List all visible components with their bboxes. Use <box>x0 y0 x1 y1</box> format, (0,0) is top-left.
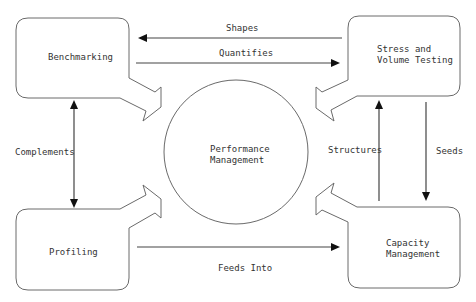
shapes-arrowhead <box>138 34 147 42</box>
capacity-label-line1: Capacity <box>386 238 440 249</box>
stress-label-line2: Volume Testing <box>377 55 453 66</box>
performance-management-label: Performance Management <box>210 144 270 166</box>
stress-volume-testing-node <box>316 16 460 121</box>
seeds-arrowhead <box>422 192 430 201</box>
stress-volume-testing-label: Stress and Volume Testing <box>377 44 453 66</box>
complements-arrowhead-down <box>70 199 78 208</box>
feeds-into-arrowhead <box>331 243 340 251</box>
capacity-management-node <box>316 183 460 288</box>
benchmarking-node <box>16 18 161 121</box>
capacity-label-line2: Management <box>386 249 440 260</box>
structures-arrowhead <box>375 100 383 109</box>
seeds-edge-label: Seeds <box>436 146 463 157</box>
complements-edge-label: Complements <box>15 147 75 158</box>
capacity-management-label: Capacity Management <box>386 238 440 260</box>
profiling-node <box>16 185 161 290</box>
structures-edge-label: Structures <box>328 145 382 156</box>
stress-label-line1: Stress and <box>377 44 453 55</box>
benchmarking-label: Benchmarking <box>48 52 113 63</box>
quantifies-arrowhead <box>331 59 340 67</box>
shapes-edge-label: Shapes <box>226 23 259 34</box>
center-label-line1: Performance <box>210 144 270 155</box>
center-label-line2: Management <box>210 155 270 166</box>
profiling-label: Profiling <box>49 247 98 258</box>
complements-arrowhead-up <box>70 100 78 109</box>
feeds-into-edge-label: Feeds Into <box>218 263 272 274</box>
quantifies-edge-label: Quantifies <box>219 48 273 59</box>
